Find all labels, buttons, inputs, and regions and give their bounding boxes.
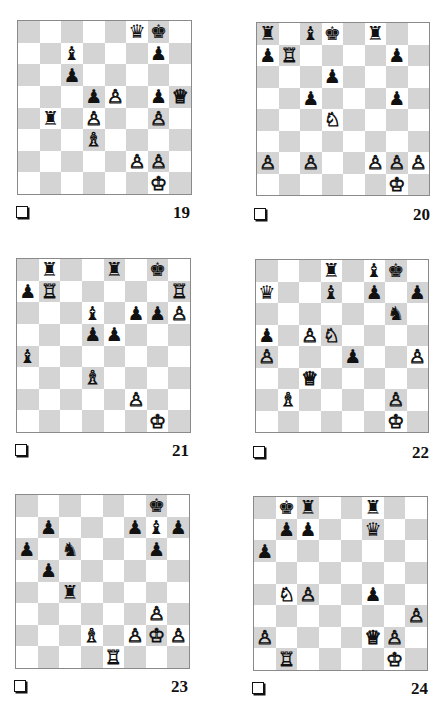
- square-g6: ♞: [385, 303, 407, 325]
- square-d6: ♝: [82, 302, 104, 324]
- black-pawn-icon: ♟: [366, 283, 383, 302]
- square-b4: [278, 346, 300, 368]
- square-c1: [299, 411, 321, 433]
- square-e1: [105, 172, 127, 194]
- square-f3: [365, 131, 387, 153]
- square-h3: [169, 129, 191, 151]
- square-b7: ♟: [276, 519, 298, 541]
- white-pawn-icon: ♙: [171, 304, 188, 323]
- black-bishop-icon: ♝: [64, 44, 81, 63]
- square-d7: [83, 43, 105, 65]
- square-h4: ♙: [407, 346, 429, 368]
- square-e3: [343, 131, 365, 153]
- square-e3: [104, 367, 126, 389]
- square-e4: ♟: [342, 346, 364, 368]
- square-b4: [39, 346, 61, 368]
- square-h2: ♙: [408, 152, 430, 174]
- square-e7: [104, 281, 126, 303]
- square-c3: [297, 605, 319, 627]
- square-e5: ♟: [104, 324, 126, 346]
- solved-checkbox[interactable]: [15, 444, 27, 456]
- white-rook-icon: ♖: [41, 282, 58, 301]
- solved-checkbox[interactable]: [252, 682, 264, 694]
- black-bishop-icon: ♝: [366, 261, 383, 280]
- square-b6: [276, 540, 298, 562]
- square-g3: [385, 368, 407, 390]
- square-e8: [105, 21, 127, 43]
- square-a5: [18, 86, 40, 108]
- black-rook-icon: ♜: [323, 261, 340, 280]
- white-king-icon: ♔: [387, 412, 404, 431]
- square-d5: ♟: [82, 324, 104, 346]
- square-f6: [126, 64, 148, 86]
- square-h5: [407, 325, 429, 347]
- square-e1: [341, 648, 363, 670]
- square-g4: [386, 109, 408, 131]
- square-c6: [300, 66, 322, 88]
- square-c8: [59, 495, 81, 517]
- square-a8: [254, 497, 276, 519]
- square-a1: [257, 174, 279, 196]
- square-g2: ♙: [385, 389, 407, 411]
- square-b4: [279, 109, 301, 131]
- solved-checkbox[interactable]: [14, 680, 26, 692]
- square-h1: [407, 411, 429, 433]
- square-a6: [18, 64, 40, 86]
- square-b6: [39, 302, 61, 324]
- square-c2: [59, 625, 81, 647]
- square-d3: ♗: [82, 367, 104, 389]
- square-g1: ♔: [385, 411, 407, 433]
- white-queen-icon: ♕: [364, 628, 381, 647]
- square-b8: [278, 260, 300, 282]
- square-d5: ♘: [321, 325, 343, 347]
- square-c4: [61, 108, 83, 130]
- square-h2: [169, 151, 191, 173]
- square-f1: [364, 411, 386, 433]
- square-b5: [39, 324, 61, 346]
- square-g2: ♙: [148, 151, 170, 173]
- square-d1: [321, 411, 343, 433]
- square-b7: [278, 282, 300, 304]
- white-pawn-icon: ♙: [409, 347, 426, 366]
- square-g4: [147, 346, 169, 368]
- square-a7: ♛: [256, 282, 278, 304]
- solved-checkbox[interactable]: [16, 206, 28, 218]
- square-c1: [61, 172, 83, 194]
- square-c5: ♟: [300, 88, 322, 110]
- square-d7: [81, 517, 103, 539]
- square-g7: [385, 282, 407, 304]
- square-a5: [257, 88, 279, 110]
- black-bishop-icon: ♝: [19, 347, 36, 366]
- square-b3: [39, 367, 61, 389]
- square-e7: [105, 43, 127, 65]
- square-a1: [18, 172, 40, 194]
- square-e1: [104, 410, 126, 432]
- white-king-icon: ♔: [148, 626, 165, 645]
- black-pawn-icon: ♟: [126, 518, 143, 537]
- square-a2: [17, 389, 39, 411]
- white-bishop-icon: ♗: [84, 368, 101, 387]
- square-a6: ♟: [16, 538, 38, 560]
- solved-checkbox[interactable]: [253, 446, 265, 458]
- square-g8: [384, 497, 406, 519]
- square-e8: [343, 23, 365, 45]
- white-pawn-icon: ♙: [259, 153, 276, 172]
- square-a6: [17, 302, 39, 324]
- square-a5: [254, 562, 276, 584]
- black-king-icon: ♚: [150, 22, 167, 41]
- square-h6: [408, 66, 430, 88]
- square-b1: [278, 411, 300, 433]
- square-a1: [256, 411, 278, 433]
- square-h7: ♟: [167, 517, 189, 539]
- square-f4: ♟: [362, 584, 384, 606]
- black-pawn-icon: ♟: [256, 542, 273, 561]
- black-rook-icon: ♜: [367, 24, 384, 43]
- square-h4: [169, 108, 191, 130]
- white-rook-icon: ♖: [281, 46, 298, 65]
- square-e7: [103, 517, 125, 539]
- square-c1: [300, 174, 322, 196]
- solved-checkbox[interactable]: [254, 208, 266, 220]
- square-a4: ♝: [17, 346, 39, 368]
- square-a3: [254, 605, 276, 627]
- square-a3: [16, 603, 38, 625]
